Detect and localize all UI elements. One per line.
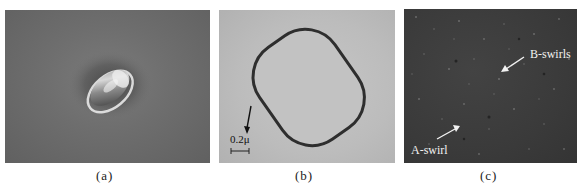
panel-a-image xyxy=(5,10,210,163)
b-swirls-label: B-swirls xyxy=(530,47,571,62)
panel-b-image: 0.2μ xyxy=(219,10,395,163)
caption-b: (b) xyxy=(295,168,313,184)
b-swirls-arrow xyxy=(506,57,524,69)
pointer-arrow xyxy=(247,106,251,128)
speckle-texture xyxy=(404,9,577,163)
caption-a: (a) xyxy=(96,168,113,184)
particle-illustration xyxy=(5,10,210,163)
a-swirl-label: A-swirl xyxy=(411,143,448,158)
scale-bar-label: 0.2μ xyxy=(230,133,250,145)
a-swirl-arrow xyxy=(437,129,455,139)
caption-c: (c) xyxy=(480,168,497,184)
panel-c-image: B-swirls A-swirl xyxy=(404,9,577,163)
